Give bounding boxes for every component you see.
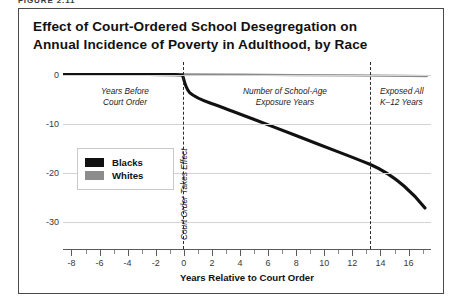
gridline-m30 [63, 222, 431, 223]
x-tick-10 [324, 250, 325, 256]
chart-legend: Blacks Whites [77, 148, 174, 190]
x-axis-ticks [63, 250, 431, 258]
x-tick-label-6: 6 [266, 258, 271, 268]
legend-swatch-blacks [85, 158, 104, 167]
x-tick-m3 [142, 250, 143, 254]
x-tick-4 [240, 250, 241, 256]
y-tick-0: 0 [54, 70, 59, 80]
x-tick-m8 [71, 250, 72, 256]
x-tick-label-10: 10 [319, 258, 329, 268]
y-tick-m10: -10 [46, 119, 59, 129]
annotation-years-before-line-2: Court Order [73, 97, 177, 108]
x-tick-9 [310, 250, 311, 254]
x-tick-label-m8: -8 [67, 258, 75, 268]
x-tick-label-m6: -6 [95, 258, 103, 268]
x-tick-m7 [86, 250, 87, 254]
annotation-exposure-years-line-1: Number of School-Age [215, 86, 355, 97]
annotation-exposed-all-k12: Exposed All K–12 Years [380, 86, 442, 108]
annotation-court-order-takes-effect: Court Order Takes Effect [179, 149, 189, 240]
x-tick-14 [380, 250, 381, 256]
x-tick-label-16: 16 [403, 258, 413, 268]
figure-container: FIGURE 2.11 Effect of Court-Ordered Scho… [0, 0, 451, 302]
x-tick-m2 [156, 250, 157, 256]
annotation-exposed-all-k12-line-1: Exposed All [380, 86, 442, 97]
chart-title: Effect of Court-Ordered School Desegrega… [33, 18, 413, 54]
annotation-exposure-years-line-2: Exposure Years [215, 97, 355, 108]
annotation-years-before-line-1: Years Before [73, 86, 177, 97]
x-tick-0 [184, 250, 185, 256]
x-tick-13 [366, 250, 367, 254]
x-tick-7 [282, 250, 283, 254]
x-tick-15 [395, 250, 396, 254]
x-tick-6 [268, 250, 269, 256]
x-tick-label-2: 2 [209, 258, 214, 268]
x-tick-11 [338, 250, 339, 254]
x-tick-label-12: 12 [347, 258, 357, 268]
y-axis-tick-labels: 0 -10 -20 -30 [30, 73, 59, 249]
reference-line-k12 [370, 62, 371, 249]
x-tick-label-8: 8 [294, 258, 299, 268]
y-tick-m30: -30 [46, 217, 59, 227]
x-tick-8 [296, 250, 297, 256]
x-tick-12 [352, 250, 353, 256]
gridline-m10 [63, 124, 431, 125]
annotation-years-before: Years Before Court Order [73, 86, 177, 108]
figure-label: FIGURE 2.11 [18, 0, 218, 8]
chart-title-line-1: Effect of Court-Ordered School Desegrega… [33, 18, 413, 36]
x-axis-title: Years Relative to Court Order [63, 272, 431, 283]
legend-label-whites: Whites [112, 170, 143, 181]
x-tick-1 [198, 250, 199, 254]
legend-label-blacks: Blacks [112, 157, 143, 168]
x-tick-m1 [170, 250, 171, 254]
x-tick-3 [226, 250, 227, 254]
x-tick-label-m2: -2 [152, 258, 160, 268]
x-tick-label-14: 14 [375, 258, 385, 268]
x-tick-m6 [100, 250, 101, 256]
x-tick-label-m4: -4 [124, 258, 132, 268]
x-tick-label-0: 0 [181, 258, 186, 268]
x-tick-5 [254, 250, 255, 254]
annotation-exposure-years: Number of School-Age Exposure Years [215, 86, 355, 108]
y-tick-m20: -20 [46, 168, 59, 178]
legend-item-whites: Whites [85, 170, 166, 181]
x-tick-label-4: 4 [237, 258, 242, 268]
annotation-exposed-all-k12-line-2: K–12 Years [380, 97, 442, 108]
x-tick-2 [212, 250, 213, 256]
gridline-0 [63, 75, 431, 76]
x-tick-16 [409, 250, 410, 256]
chart-title-line-2: Annual Incidence of Poverty in Adulthood… [33, 36, 413, 54]
x-tick-m5 [114, 250, 115, 254]
x-tick-17 [423, 250, 424, 254]
legend-item-blacks: Blacks [85, 157, 166, 168]
x-tick-m4 [128, 250, 129, 256]
legend-swatch-whites [85, 171, 104, 180]
